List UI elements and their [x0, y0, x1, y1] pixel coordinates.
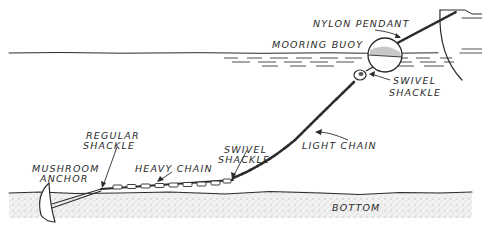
mooring-buoy [368, 38, 402, 72]
arrow-light-chain [318, 132, 348, 140]
label-mushroom-anchor-line2: ANCHOR [39, 173, 89, 184]
label-mooring-buoy: MOORING BUOY [272, 39, 363, 50]
water-ripples [224, 58, 454, 66]
mooring-diagram: NYLON PENDANT MOORING BUOY SWIVEL SHACKL… [0, 0, 482, 227]
heavy-chain [101, 179, 233, 189]
arrow-regular-shackle [103, 147, 117, 186]
label-swivel-shackle-top-line1: SWIVEL [393, 75, 436, 86]
label-heavy-chain: HEAVY CHAIN [135, 163, 213, 174]
water-surface [9, 49, 482, 53]
label-nylon-pendant: NYLON PENDANT [313, 18, 410, 29]
seabed [9, 191, 472, 218]
boat-hull [440, 10, 482, 80]
label-swivel-shackle-bottom-line2: SHACKLE [218, 154, 270, 165]
label-swivel-shackle-top-line2: SHACKLE [389, 87, 441, 98]
label-bottom: BOTTOM [332, 202, 380, 213]
label-light-chain: LIGHT CHAIN [302, 140, 377, 151]
label-regular-shackle-line2: SHACKLE [83, 140, 135, 151]
